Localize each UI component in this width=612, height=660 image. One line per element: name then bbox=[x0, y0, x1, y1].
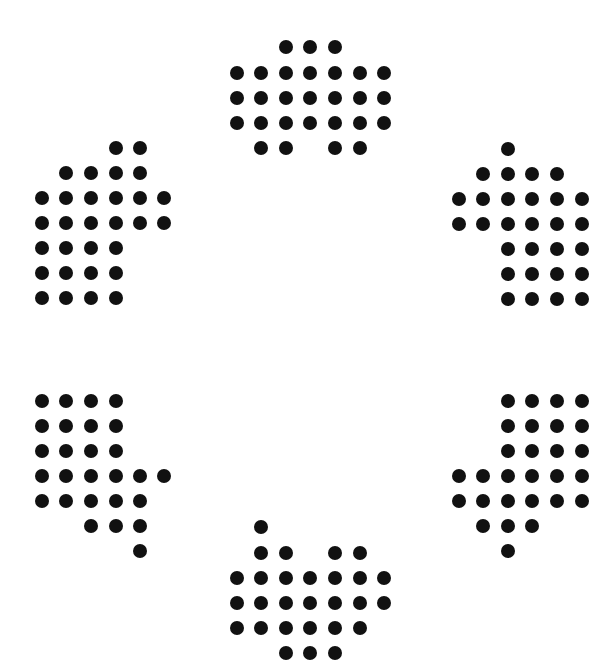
dot bbox=[279, 116, 293, 130]
dot bbox=[328, 91, 342, 105]
dot bbox=[109, 469, 123, 483]
dot bbox=[84, 444, 98, 458]
dot bbox=[525, 494, 539, 508]
dot bbox=[84, 494, 98, 508]
dot bbox=[550, 292, 564, 306]
dot bbox=[279, 40, 293, 54]
dot bbox=[575, 192, 589, 206]
dot bbox=[550, 267, 564, 281]
dot bbox=[84, 241, 98, 255]
dot bbox=[377, 66, 391, 80]
dot bbox=[59, 241, 73, 255]
dot bbox=[109, 266, 123, 280]
dot bbox=[59, 191, 73, 205]
dot bbox=[525, 469, 539, 483]
dot bbox=[452, 192, 466, 206]
dot bbox=[59, 419, 73, 433]
dot bbox=[550, 494, 564, 508]
dot bbox=[476, 494, 490, 508]
dot bbox=[501, 444, 515, 458]
dot bbox=[550, 394, 564, 408]
dot bbox=[550, 419, 564, 433]
dot bbox=[377, 91, 391, 105]
dot bbox=[550, 444, 564, 458]
dot bbox=[353, 546, 367, 560]
dot bbox=[353, 571, 367, 585]
dot bbox=[452, 494, 466, 508]
dot bbox=[501, 494, 515, 508]
dot bbox=[59, 166, 73, 180]
dot bbox=[328, 571, 342, 585]
dot bbox=[525, 192, 539, 206]
dot bbox=[279, 571, 293, 585]
dot bbox=[109, 394, 123, 408]
dot bbox=[501, 142, 515, 156]
dot bbox=[303, 40, 317, 54]
dot bbox=[157, 469, 171, 483]
dot bbox=[501, 469, 515, 483]
dot bbox=[109, 141, 123, 155]
dot bbox=[133, 141, 147, 155]
dot bbox=[109, 444, 123, 458]
dot bbox=[575, 494, 589, 508]
dot bbox=[303, 571, 317, 585]
dot bbox=[328, 596, 342, 610]
dot bbox=[254, 91, 268, 105]
dot bbox=[550, 217, 564, 231]
dot bbox=[279, 66, 293, 80]
dot bbox=[303, 621, 317, 635]
dot bbox=[254, 141, 268, 155]
dot bbox=[230, 571, 244, 585]
dot bbox=[35, 469, 49, 483]
dot bbox=[279, 91, 293, 105]
dot bbox=[501, 267, 515, 281]
dot bbox=[133, 469, 147, 483]
dot bbox=[35, 494, 49, 508]
dot bbox=[279, 141, 293, 155]
dot bbox=[550, 242, 564, 256]
dot bbox=[109, 191, 123, 205]
dot bbox=[254, 116, 268, 130]
dot bbox=[328, 66, 342, 80]
dot bbox=[84, 216, 98, 230]
dot bbox=[303, 646, 317, 660]
dot bbox=[59, 494, 73, 508]
dot bbox=[575, 469, 589, 483]
dot bbox=[35, 419, 49, 433]
dot bbox=[109, 166, 123, 180]
dot bbox=[35, 394, 49, 408]
dot bbox=[501, 242, 515, 256]
dot bbox=[254, 520, 268, 534]
dot bbox=[35, 191, 49, 205]
dot bbox=[525, 394, 539, 408]
dot bbox=[279, 596, 293, 610]
dot bbox=[303, 66, 317, 80]
dot bbox=[279, 646, 293, 660]
dot bbox=[476, 167, 490, 181]
dot bbox=[501, 394, 515, 408]
dot bbox=[353, 91, 367, 105]
dot bbox=[525, 444, 539, 458]
dot bbox=[575, 267, 589, 281]
dot bbox=[476, 469, 490, 483]
dot bbox=[353, 66, 367, 80]
dot bbox=[575, 444, 589, 458]
dot bbox=[230, 116, 244, 130]
dot bbox=[133, 519, 147, 533]
dot bbox=[328, 546, 342, 560]
dot bbox=[525, 242, 539, 256]
dot bbox=[525, 267, 539, 281]
dot bbox=[476, 217, 490, 231]
dot bbox=[133, 494, 147, 508]
dot bbox=[254, 571, 268, 585]
dot bbox=[476, 519, 490, 533]
dot bbox=[501, 192, 515, 206]
dot bbox=[84, 419, 98, 433]
dot bbox=[109, 241, 123, 255]
dot bbox=[550, 167, 564, 181]
dot bbox=[525, 519, 539, 533]
dot bbox=[230, 596, 244, 610]
dot bbox=[303, 596, 317, 610]
dot bbox=[59, 444, 73, 458]
dot bbox=[575, 394, 589, 408]
